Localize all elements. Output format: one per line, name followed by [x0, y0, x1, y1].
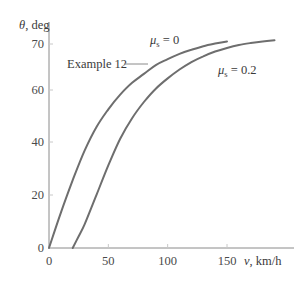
x-tick-label: 50	[102, 254, 115, 268]
chart: 020406070 050100150 θ, deg v, km/h μs = …	[0, 0, 305, 281]
x-tick-label: 150	[218, 254, 237, 268]
y-tick-label: 20	[32, 188, 45, 202]
series-label-mu-s-0-2: μs = 0.2	[217, 63, 257, 79]
curve-mu-s-0	[49, 42, 227, 249]
x-tick-label: 100	[158, 254, 177, 268]
x-axis-title-unit: , km/h	[250, 254, 283, 268]
x-axis-title: v, km/h	[244, 254, 282, 268]
y-axis-title: θ, deg	[19, 18, 50, 32]
series-label-mu-s-0: μs = 0	[149, 33, 179, 49]
x-tick-label: 0	[46, 254, 52, 268]
y-axis-title-unit: , deg	[25, 18, 50, 32]
y-tick-label: 70	[32, 37, 45, 51]
y-tick-label: 60	[32, 83, 45, 97]
y-tick-label: 40	[32, 135, 45, 149]
y-axis-ticks: 020406070	[32, 37, 54, 255]
y-tick-label: 0	[38, 241, 44, 255]
annotation-example-12: Example 12	[67, 57, 127, 71]
